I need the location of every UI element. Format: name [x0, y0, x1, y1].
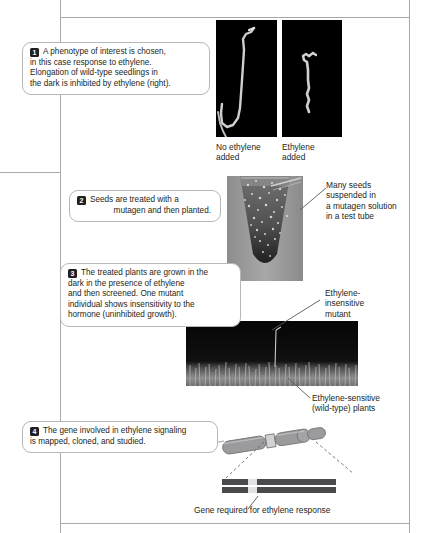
step-3-line-1: The treated plants are grown in the	[81, 268, 208, 277]
step-3-line-3: and then screened. One mutant	[68, 289, 233, 300]
leader-line-test-tube	[300, 186, 328, 212]
label-ethylene-added: Ethylene added	[282, 142, 346, 163]
step-1-line-3: Elongation of wild-type seedlings in	[30, 68, 202, 79]
seedling-no-ethylene-drawing	[216, 20, 277, 137]
label-ethylene-added-line-1: Ethylene	[282, 142, 315, 152]
gene-band-map	[222, 478, 336, 496]
label-wild-type-line-2: (wild-type) plants	[312, 403, 375, 413]
step-number-2: 2	[77, 196, 86, 205]
label-gene-required: Gene required for ethylene response	[194, 505, 414, 515]
label-test-tube-description: Many seeds suspended in a mutagen soluti…	[326, 180, 426, 222]
label-mutant-line-1: Ethylene-	[325, 288, 360, 298]
label-test-tube-line-1: Many seeds	[326, 180, 371, 190]
label-mutant-line-3: mutant	[325, 309, 351, 319]
callout-step-2: 2Seeds are treated with a mutagen and th…	[69, 190, 221, 222]
step-2-line-1: Seeds are treated with a	[90, 195, 179, 204]
label-wild-type-line-1: Ethylene-sensitive	[312, 393, 380, 403]
step-1-line-1: A phenotype of interest is chosen,	[43, 47, 166, 56]
label-mutant-line-2: insensitive	[325, 298, 364, 308]
ethylene-mutant-screen-figure: 1A phenotype of interest is chosen, in t…	[0, 0, 432, 533]
label-test-tube-line-4: in a test tube	[326, 211, 374, 221]
step-4-line-2: is mapped, cloned, and studied.	[30, 437, 210, 448]
step-number-3: 3	[68, 269, 77, 278]
photo-seedling-no-ethylene	[216, 20, 277, 137]
label-ethylene-insensitive-mutant: Ethylene- insensitive mutant	[325, 288, 415, 319]
step-1-line-4: the dark is inhibited by ethylene (right…	[30, 79, 202, 90]
label-test-tube-line-3: a mutagen solution	[326, 201, 397, 211]
callout-step-4: 4The gene involved in ethylene signaling…	[22, 421, 218, 453]
step-1-line-2: in this case response to ethylene.	[30, 58, 202, 69]
step-4-line-1: The gene involved in ethylene signaling	[43, 426, 186, 435]
section-divider-rule	[0, 172, 60, 173]
right-vertical-rule	[409, 0, 410, 533]
step-3-line-5: hormone (uninhibited growth).	[68, 310, 233, 321]
step-3-line-4: individual shows insensitivity to the	[68, 300, 233, 311]
label-no-ethylene-line-2: added	[216, 152, 239, 162]
step-number-4: 4	[30, 427, 39, 436]
label-test-tube-line-2: suspended in	[326, 190, 376, 200]
leader-line-mutant	[270, 296, 322, 332]
label-ethylene-added-line-2: added	[282, 152, 305, 162]
gene-band-drawing	[222, 478, 336, 496]
step-3-line-2: dark in the presence of ethylene	[68, 279, 233, 290]
callout-step-1: 1A phenotype of interest is chosen, in t…	[22, 42, 210, 95]
seedling-ethylene-drawing	[282, 20, 342, 137]
label-ethylene-sensitive-wild-type: Ethylene-sensitive (wild-type) plants	[312, 393, 430, 414]
label-no-ethylene-added: No ethylene added	[216, 142, 280, 163]
label-no-ethylene-line-1: No ethylene	[216, 142, 261, 152]
leader-line-wild-type	[288, 378, 314, 400]
bottom-horizontal-rule	[60, 523, 409, 524]
step-number-1: 1	[30, 48, 39, 57]
photo-seedling-ethylene-added	[282, 20, 342, 137]
callout-step-3: 3The treated plants are grown in the dar…	[60, 263, 241, 327]
projection-lines-to-band	[198, 440, 368, 480]
step-2-line-2: mutagen and then planted.	[77, 206, 213, 217]
top-horizontal-rule	[60, 17, 409, 18]
